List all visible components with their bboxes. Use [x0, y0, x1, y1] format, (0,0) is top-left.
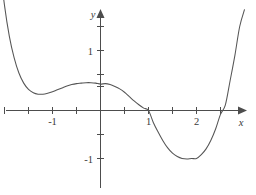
x-tick-label-neg1: -1 — [48, 116, 57, 127]
y-tick-label-1: 1 — [88, 46, 93, 57]
x-tick-label-1: 1 — [146, 116, 151, 127]
chart-container: -1 1 2 1 -1 x y — [0, 0, 256, 195]
x-tick-label-2: 2 — [194, 116, 199, 127]
y-tick-label-neg1: -1 — [84, 154, 93, 165]
x-axis-arrow-icon — [238, 107, 247, 115]
function-curve — [0, 0, 245, 159]
y-axis-label: y — [90, 9, 96, 20]
y-axis-arrow-icon — [97, 9, 105, 18]
x-axis-label: x — [238, 117, 244, 128]
function-plot: -1 1 2 1 -1 x y — [0, 0, 256, 195]
